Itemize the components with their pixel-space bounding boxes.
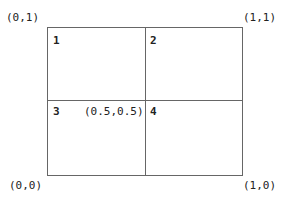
corner-label-top-right: (1,1) xyxy=(243,12,276,24)
quadrant-label-3: 3 xyxy=(53,106,60,118)
corner-label-top-left: (0,1) xyxy=(6,12,39,24)
corner-label-bottom-right: (1,0) xyxy=(243,180,276,192)
center-point-label: (0.5,0.5) xyxy=(84,106,144,118)
horizontal-divider xyxy=(47,100,243,101)
quadrant-label-2: 2 xyxy=(150,35,157,47)
quadrant-label-1: 1 xyxy=(53,35,60,47)
quadrant-label-4: 4 xyxy=(150,106,157,118)
corner-label-bottom-left: (0,0) xyxy=(9,180,42,192)
vertical-divider xyxy=(145,27,146,176)
